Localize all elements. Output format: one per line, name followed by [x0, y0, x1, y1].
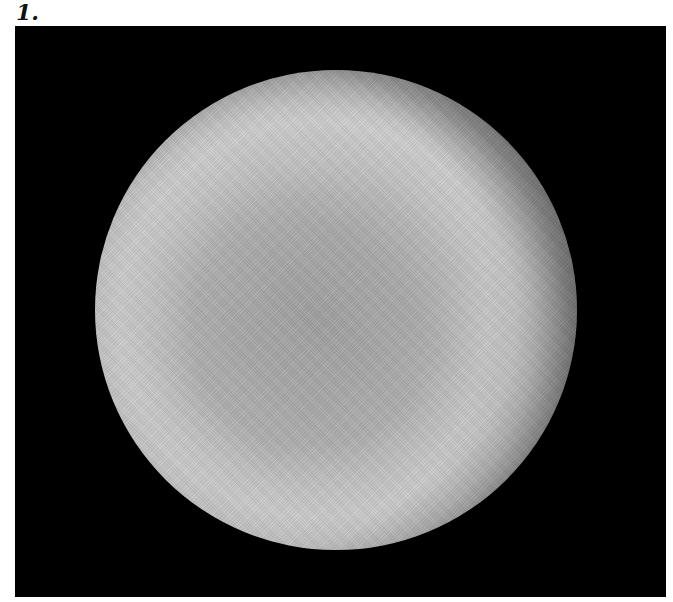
- circular-specimen-image: [95, 70, 577, 550]
- image-panel: [15, 26, 666, 597]
- texture-overlay: [95, 70, 577, 550]
- panel-label: 1.: [16, 0, 39, 24]
